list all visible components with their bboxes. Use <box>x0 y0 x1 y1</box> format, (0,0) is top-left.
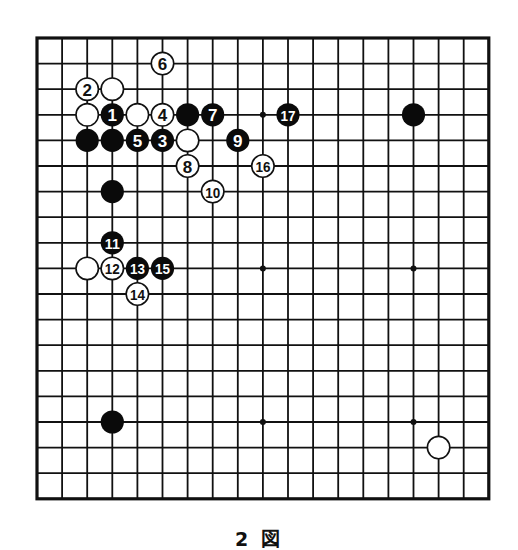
move-number-label: 3 <box>158 132 167 151</box>
move-number-label: 13 <box>130 260 145 277</box>
move-number-label: 9 <box>233 132 242 151</box>
move-number-label: 16 <box>255 158 270 175</box>
white-stone <box>176 129 198 151</box>
black-stone-move-5: 5 <box>126 129 149 152</box>
black-stone-icon <box>176 103 199 126</box>
white-stone-move-14: 14 <box>126 283 148 305</box>
white-stone <box>76 257 98 279</box>
move-number-label: 6 <box>158 55 167 74</box>
black-stone-move-11: 11 <box>101 231 124 254</box>
go-board: 1234567891011121314151617 <box>0 0 518 520</box>
move-number-label: 17 <box>281 107 296 124</box>
move-number-label: 12 <box>105 260 120 277</box>
black-stone-move-15: 15 <box>151 257 174 280</box>
white-stone-move-8: 8 <box>176 155 198 177</box>
black-stone-move-7: 7 <box>201 103 224 126</box>
figure-caption: 2 図 <box>0 528 518 550</box>
white-stone-move-10: 10 <box>202 180 224 202</box>
black-stone-icon <box>402 103 425 126</box>
star-point-icon <box>411 419 417 425</box>
black-stone <box>402 103 425 126</box>
move-number-label: 7 <box>208 106 217 125</box>
white-stone-move-12: 12 <box>101 257 123 279</box>
white-stone-icon <box>427 436 449 458</box>
white-stone-icon <box>76 257 98 279</box>
white-stone-icon <box>101 78 123 100</box>
black-stone <box>101 129 124 152</box>
black-stone-icon <box>101 129 124 152</box>
black-stone-move-13: 13 <box>126 257 149 280</box>
star-point-icon <box>411 265 417 271</box>
move-number-label: 8 <box>183 158 192 177</box>
white-stone <box>427 436 449 458</box>
move-number-label: 1 <box>108 106 117 125</box>
black-stone <box>101 410 124 433</box>
black-stone-icon <box>101 180 124 203</box>
white-stone-move-6: 6 <box>151 52 173 74</box>
move-number-label: 14 <box>130 286 146 303</box>
move-number-label: 10 <box>205 184 220 201</box>
black-stone-move-3: 3 <box>151 129 174 152</box>
black-stone-icon <box>76 129 99 152</box>
white-stone-icon <box>176 129 198 151</box>
white-stone-icon <box>126 104 148 126</box>
white-stone-move-16: 16 <box>252 155 274 177</box>
star-point-icon <box>260 419 266 425</box>
black-stone <box>176 103 199 126</box>
black-stone <box>101 180 124 203</box>
black-stone-icon <box>101 410 124 433</box>
star-point-icon <box>260 265 266 271</box>
move-number-label: 5 <box>133 132 142 151</box>
white-stone <box>76 104 98 126</box>
move-number-label: 4 <box>158 106 168 125</box>
black-stone-move-17: 17 <box>276 103 299 126</box>
black-stone-move-9: 9 <box>226 129 249 152</box>
white-stone-move-2: 2 <box>76 78 98 100</box>
move-number-label: 11 <box>105 235 120 252</box>
star-point-icon <box>260 112 266 118</box>
white-stone <box>101 78 123 100</box>
black-stone-move-1: 1 <box>101 103 124 126</box>
white-stone-move-4: 4 <box>151 104 173 126</box>
white-stone <box>126 104 148 126</box>
move-number-label: 2 <box>82 81 91 100</box>
black-stone <box>76 129 99 152</box>
move-number-label: 15 <box>155 260 170 277</box>
go-board-diagram: 1234567891011121314151617 <box>0 0 518 520</box>
white-stone-icon <box>76 104 98 126</box>
